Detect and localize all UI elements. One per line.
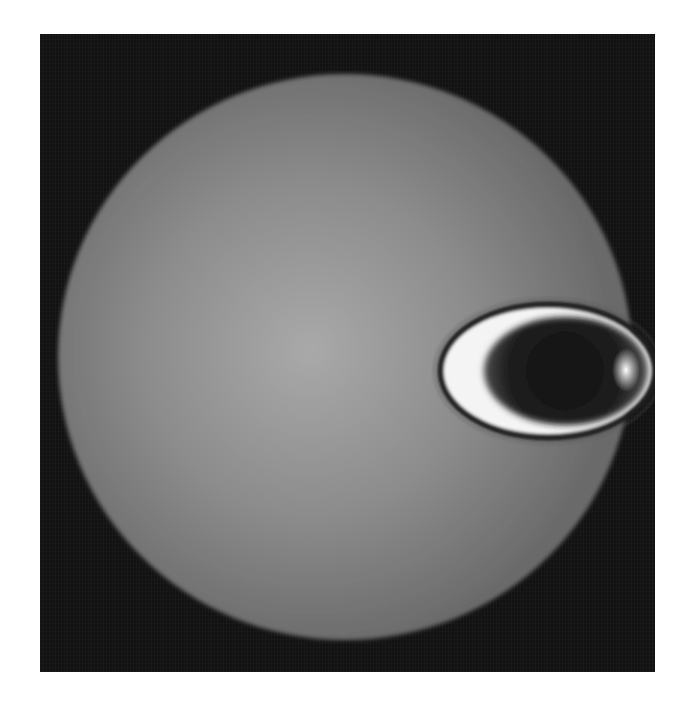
sphere-scene: [0, 0, 698, 701]
ring-bright-spot: [612, 348, 640, 392]
